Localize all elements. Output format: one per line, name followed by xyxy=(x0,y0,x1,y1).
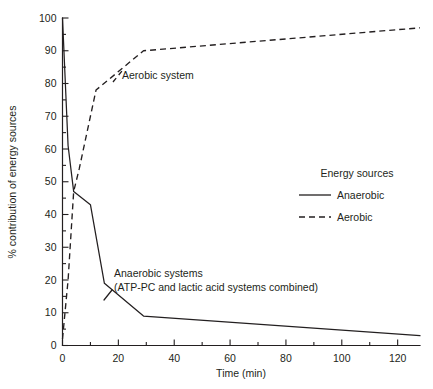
y-tick-label: 80 xyxy=(45,77,57,89)
y-tick-label: 50 xyxy=(45,175,57,187)
y-tick-label: 10 xyxy=(45,306,57,318)
y-tick-label: 30 xyxy=(45,241,57,253)
aerobic-annotation-leader xyxy=(113,71,122,82)
x-axis-major-ticks xyxy=(63,340,398,346)
anaerobic-annotation-line1: Anaerobic systems xyxy=(114,267,203,279)
y-tick-label: 90 xyxy=(45,44,57,56)
x-tick-label: 100 xyxy=(333,352,351,364)
x-tick-label: 80 xyxy=(280,352,292,364)
x-tick-label: 20 xyxy=(113,352,125,364)
y-axis-title: % contribution of energy sources xyxy=(6,106,18,259)
x-axis-title: Time (min) xyxy=(216,367,266,379)
y-axis-tick-labels: 0102030405060708090100 xyxy=(39,12,57,352)
x-tick-label: 40 xyxy=(168,352,180,364)
y-tick-label: 20 xyxy=(45,274,57,286)
legend: Energy sources Anaerobic Aerobic xyxy=(299,167,393,223)
legend-label-aerobic: Aerobic xyxy=(337,211,373,223)
x-tick-label: 60 xyxy=(224,352,236,364)
chart-canvas: 0102030405060708090100 020406080100120 T… xyxy=(0,0,433,389)
y-tick-label: 70 xyxy=(45,110,57,122)
y-tick-label: 100 xyxy=(39,12,57,24)
legend-label-anaerobic: Anaerobic xyxy=(337,189,384,201)
anaerobic-annotation-leader xyxy=(104,290,112,300)
energy-systems-chart: 0102030405060708090100 020406080100120 T… xyxy=(0,0,433,389)
x-tick-label: 120 xyxy=(389,352,407,364)
y-tick-label: 0 xyxy=(51,339,57,351)
anaerobic-annotation-line2: (ATP-PC and lactic acid systems combined… xyxy=(114,281,318,293)
x-tick-label: 0 xyxy=(60,352,66,364)
y-tick-label: 40 xyxy=(45,208,57,220)
y-tick-label: 60 xyxy=(45,143,57,155)
legend-title: Energy sources xyxy=(321,167,394,179)
aerobic-annotation-label: Aerobic system xyxy=(122,69,194,81)
x-axis-tick-labels: 020406080100120 xyxy=(60,352,407,364)
